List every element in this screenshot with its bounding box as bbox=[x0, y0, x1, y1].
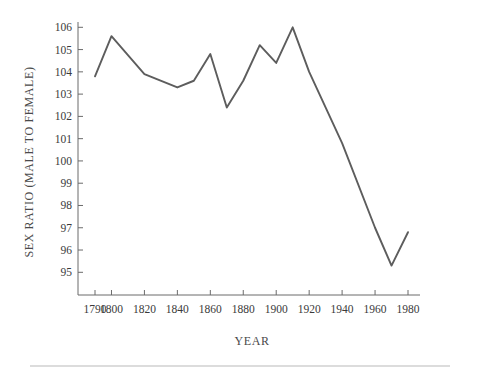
y-tick-label: 96 bbox=[61, 244, 73, 256]
y-tick-label: 100 bbox=[55, 155, 73, 167]
x-tick-label: 1980 bbox=[397, 303, 420, 315]
y-tick-label: 99 bbox=[61, 177, 73, 189]
y-tick-label: 97 bbox=[61, 222, 73, 234]
x-tick-label: 1920 bbox=[298, 303, 321, 315]
y-tick-label: 98 bbox=[61, 199, 73, 211]
line-chart: SEX RATIO (MALE TO FEMALE) YEAR 95969798… bbox=[0, 0, 480, 376]
x-tick-label: 1900 bbox=[265, 303, 288, 315]
x-axis-title: YEAR bbox=[234, 334, 269, 348]
y-tick-marks bbox=[78, 27, 83, 272]
y-tick-label: 102 bbox=[55, 110, 73, 122]
data-series-line bbox=[95, 27, 408, 265]
x-tick-label: 1960 bbox=[364, 303, 387, 315]
y-tick-label: 106 bbox=[55, 21, 73, 33]
x-tick-label: 1800 bbox=[100, 303, 123, 315]
x-tick-label: 1880 bbox=[232, 303, 255, 315]
y-tick-labels: 9596979899100101102103104105106 bbox=[55, 21, 73, 278]
x-tick-label: 1940 bbox=[331, 303, 354, 315]
y-tick-label: 105 bbox=[55, 44, 73, 56]
y-tick-label: 95 bbox=[61, 266, 73, 278]
x-tick-label: 1820 bbox=[133, 303, 156, 315]
y-tick-label: 101 bbox=[55, 133, 73, 145]
x-tick-label: 1860 bbox=[199, 303, 222, 315]
y-axis-title: SEX RATIO (MALE TO FEMALE) bbox=[22, 66, 36, 257]
chart-figure: SEX RATIO (MALE TO FEMALE) YEAR 95969798… bbox=[0, 0, 480, 376]
x-tick-label: 1840 bbox=[166, 303, 189, 315]
y-tick-label: 103 bbox=[55, 88, 73, 100]
y-tick-label: 104 bbox=[55, 66, 73, 78]
x-tick-labels: 1790180018201840186018801900192019401960… bbox=[84, 303, 420, 315]
x-tick-marks bbox=[95, 290, 408, 295]
